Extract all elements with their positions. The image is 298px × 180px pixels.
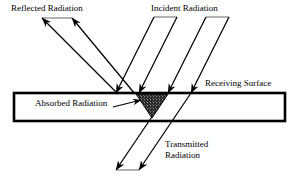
- reflected-ray-2: [72, 18, 135, 94]
- radiation-diagram: Reflected Radiation Incident Radiation R…: [0, 0, 298, 180]
- label-transmitted-radiation: TransmittedRadiation: [165, 139, 208, 161]
- diagram-canvas: [0, 0, 298, 180]
- label-transmitted-line1: Transmitted: [165, 139, 208, 149]
- incident-ray-3: [168, 17, 206, 93]
- label-incident-radiation: Incident Radiation: [151, 3, 218, 14]
- incident-ray-1: [116, 17, 154, 93]
- reflected-ray-1: [42, 18, 118, 94]
- label-transmitted-line2: Radiation: [165, 150, 200, 160]
- incident-ray-2: [139, 17, 177, 93]
- label-absorbed-radiation: Absorbed Radiation: [35, 98, 107, 109]
- label-reflected-radiation: Reflected Radiation: [11, 3, 83, 14]
- label-receiving-surface: Receiving Surface: [205, 78, 271, 89]
